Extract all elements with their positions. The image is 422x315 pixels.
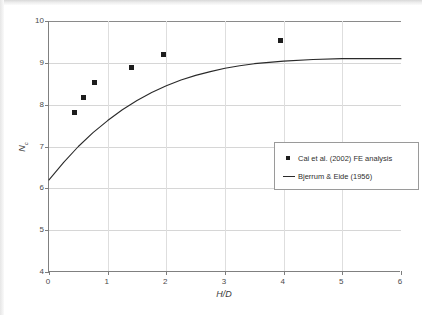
y-axis-tick-label: 8: [22, 101, 44, 109]
data-point-marker: [161, 52, 166, 57]
x-axis-tick-label: 4: [273, 278, 293, 286]
line-marker-icon: [283, 176, 295, 177]
x-axis-tick: [401, 271, 402, 275]
data-point-marker: [129, 65, 134, 70]
legend-label-bjerrum: Bjerrum & Eide (1956): [298, 172, 372, 181]
data-point-marker: [72, 110, 77, 115]
x-axis-tick-label: 6: [390, 278, 410, 286]
y-axis-tick-label: 10: [22, 17, 44, 25]
x-axis-tick-label: 1: [97, 278, 117, 286]
x-axis-label: H/D: [48, 289, 400, 299]
data-point-marker: [92, 80, 97, 85]
x-axis-tick-label: 3: [214, 278, 234, 286]
y-axis-tick-label: 7: [22, 143, 44, 151]
legend-entry-cai: Cai et al. (2002) FE analysis: [283, 149, 412, 167]
x-axis-tick-label: 2: [155, 278, 175, 286]
data-point-marker: [81, 95, 86, 100]
data-point-marker: [278, 38, 283, 43]
plot-area: Cai et al. (2002) FE analysis Bjerrum & …: [48, 21, 400, 272]
y-axis-tick-label: 6: [22, 184, 44, 192]
chart-figure: Nc Cai et al. (2002) FE analysis Bjerrum…: [0, 0, 422, 315]
x-axis-tick-label: 0: [38, 278, 58, 286]
y-axis-tick-label: 9: [22, 59, 44, 67]
x-axis-tick-label: 5: [331, 278, 351, 286]
y-axis-tick-label: 4: [22, 268, 44, 276]
legend-entry-bjerrum: Bjerrum & Eide (1956): [283, 167, 412, 185]
square-marker-icon: [283, 156, 293, 160]
legend-label-cai: Cai et al. (2002) FE analysis: [298, 154, 392, 163]
y-axis-tick-label: 5: [22, 226, 44, 234]
chart-legend: Cai et al. (2002) FE analysis Bjerrum & …: [274, 142, 419, 190]
